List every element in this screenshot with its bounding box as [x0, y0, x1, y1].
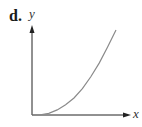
y-axis-arrow-icon: [30, 25, 35, 33]
x-axis-label: x: [132, 106, 139, 121]
panel-label: d.: [9, 7, 22, 24]
x-axis-arrow-icon: [123, 113, 131, 118]
graph-figure: d. y x: [0, 0, 142, 127]
curve-line: [32, 30, 116, 115]
y-axis-label: y: [27, 6, 35, 21]
